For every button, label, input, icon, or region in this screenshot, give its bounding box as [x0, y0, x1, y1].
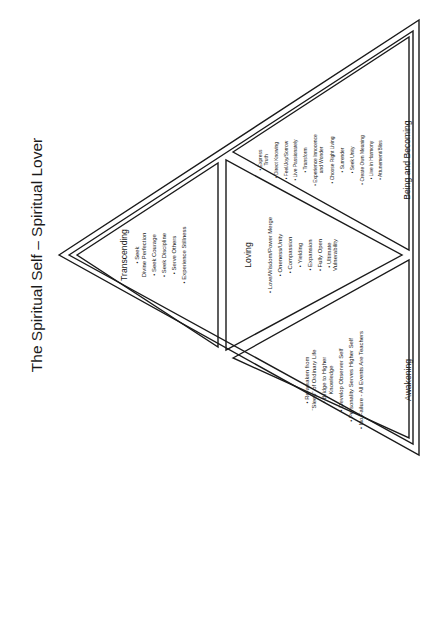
list-item: • Transform	[303, 147, 308, 172]
section-heading: Being and Becoming	[402, 120, 412, 200]
list-item: • Expansion	[307, 239, 313, 270]
list-item: • Seek Discipline	[161, 232, 167, 277]
list-item: • Attunement/Bliss	[378, 140, 383, 180]
list-item: • Seek Courage	[151, 234, 157, 276]
list-item: • Bridge to Higher	[321, 357, 327, 403]
section-being-becoming: • Express Truth • Direct Knowing • Feel/…	[258, 120, 412, 200]
section-loving: Loving • Love/Wisdom/Power Merge • Onene…	[243, 216, 338, 293]
list-item: • Fully Open	[317, 239, 323, 271]
section-transcending: Transcending • Seek Divine Perfection • …	[119, 227, 187, 284]
list-item: • Express	[258, 149, 263, 170]
list-item: • Compassion	[287, 237, 293, 273]
list-item: • Oneness/Unity	[277, 234, 283, 276]
section-awakening: • Re-awaken from “Sleep” of Ordinary Lif…	[304, 331, 413, 429]
outer-triangle	[59, 20, 419, 455]
section-transcending-border	[77, 163, 218, 347]
diagram-title: The Spiritual Self – Spiritual Lover	[28, 138, 45, 372]
list-item: • Develop Observer Self	[338, 348, 344, 411]
section-heading: Awakening	[403, 359, 413, 401]
list-item: • Seek	[134, 246, 140, 263]
list-item: • Yielding	[297, 243, 303, 267]
list-item: • Experience Stillness	[181, 227, 187, 284]
list-item: and Wonder	[319, 146, 324, 173]
list-item: • Experience Innocence	[313, 134, 318, 186]
list-item: • Personality Serves Higher Self	[348, 338, 354, 422]
list-item: Divine Perfection	[141, 233, 147, 278]
list-item: • Serve Others	[171, 236, 177, 274]
list-item: Truth	[264, 154, 269, 166]
list-item: • Live Passionately	[293, 139, 298, 181]
list-item: “Sleep” of Ordinary Life	[311, 349, 317, 411]
spiritual-self-diagram: The Spiritual Self – Spiritual Lover Tra…	[0, 0, 443, 617]
list-item: • Feel/Joy/Sorrow	[284, 140, 289, 179]
section-heading: Loving	[243, 242, 253, 268]
list-item: • No Failure - All Events Are Teachers	[358, 331, 364, 429]
list-item: • Choose Right Living	[330, 136, 335, 183]
list-item: • Surrender	[340, 147, 345, 172]
list-item: • Love/Wisdom/Power Merge	[267, 216, 273, 293]
list-item: Knowledge	[328, 365, 334, 395]
list-item: • Re-awaken from	[304, 356, 310, 403]
list-item: • Seek Unity	[350, 146, 355, 173]
list-item: • Create Own Meaning	[360, 135, 365, 185]
section-heading: Transcending	[119, 229, 129, 281]
list-item: • Direct Knowing	[274, 142, 279, 178]
section-awakening-border	[233, 260, 409, 438]
list-item: • Live in Harmony	[369, 140, 374, 179]
list-item: Vulnerability	[332, 239, 338, 271]
